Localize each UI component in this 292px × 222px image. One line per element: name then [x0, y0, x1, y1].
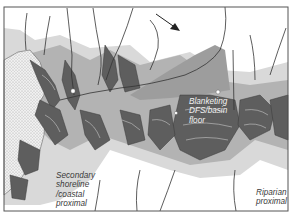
label-blanketing-dfs-basin-floor: Blanketing DFS/basin floor — [189, 97, 259, 125]
label-riparian-proximal: Riparian proximal — [256, 188, 292, 207]
label-secondary-shoreline: Secondary shoreline /coastal proximal — [56, 171, 116, 209]
